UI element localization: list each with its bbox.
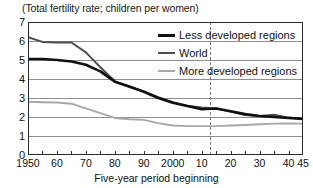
legend-item: Less developed regions <box>158 26 308 44</box>
x-tick-label: 90 <box>138 157 150 169</box>
x-axis-tick-labels: 19506070809020001020304045 <box>0 157 313 171</box>
legend-item-label: Less developed regions <box>179 29 295 41</box>
y-tick-label: 3 <box>1 93 25 104</box>
x-axis-title: Five-year period beginning <box>0 172 313 185</box>
x-tick-label: 10 <box>196 157 208 169</box>
y-tick-label: 1 <box>1 131 25 142</box>
y-tick-label: 5 <box>1 55 25 66</box>
legend-item: World <box>158 44 308 62</box>
legend-item-label: World <box>179 47 208 59</box>
y-tick-label: 6 <box>1 36 25 47</box>
x-tick-label: 1950 <box>16 157 39 169</box>
y-tick-label: 2 <box>1 112 25 123</box>
x-tick-label: 2000 <box>161 157 184 169</box>
legend-swatch-icon <box>158 70 175 72</box>
x-axis-ticks <box>29 151 304 155</box>
chart-legend: Less developed regionsWorldMore develope… <box>158 26 308 80</box>
y-tick-label: 4 <box>1 74 25 85</box>
legend-swatch-icon <box>158 52 175 54</box>
x-tick-label: 70 <box>80 157 92 169</box>
legend-item-label: More developed regions <box>179 65 297 77</box>
x-tick-label: 30 <box>254 157 266 169</box>
x-tick-label: 45 <box>297 157 309 169</box>
x-tick-label: 40 <box>283 157 295 169</box>
legend-item: More developed regions <box>158 62 308 80</box>
x-tick-label: 20 <box>225 157 237 169</box>
y-axis-tick-labels: 01234567 <box>0 22 25 155</box>
series-line <box>28 102 303 126</box>
chart-title: (Total fertility rate; children per wome… <box>22 2 199 15</box>
fertility-rate-chart: (Total fertility rate; children per wome… <box>0 0 313 188</box>
y-tick-label: 7 <box>1 17 25 28</box>
x-tick-label: 80 <box>109 157 121 169</box>
x-tick-label: 60 <box>51 157 63 169</box>
legend-swatch-icon <box>158 34 175 37</box>
